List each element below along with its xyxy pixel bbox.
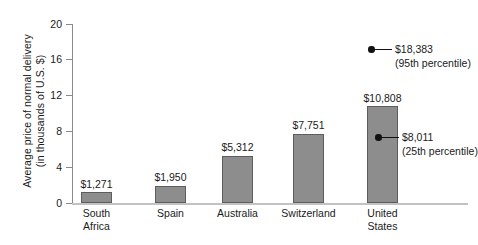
p95-marker-dot [368, 46, 375, 53]
bar-spain [155, 186, 186, 204]
p25-marker-value: $8,011 [402, 131, 433, 143]
bar-value-spain: $1,950 [140, 171, 201, 183]
y-axis-line [72, 24, 73, 204]
bar-value-switzerland: $7,751 [278, 119, 339, 131]
p95-marker-label: $18,383 (95th percentile) [395, 43, 471, 70]
y-tick-20 [66, 24, 72, 25]
y-tick-label-16: 16 [38, 53, 62, 65]
y-axis-title-line-1: Average price of normal delivery [21, 34, 34, 188]
y-tick-label-4: 4 [38, 161, 62, 173]
x-axis-label-south-africa-line-1: South [83, 207, 110, 219]
x-axis-label-united-states-line-1: United [367, 207, 397, 219]
p25-marker-sublabel: (25th percentile) [402, 145, 478, 159]
p25-marker-label: $8,011 (25th percentile) [402, 131, 478, 158]
bar-south-africa [81, 192, 112, 203]
x-axis-baseline [72, 203, 468, 205]
y-axis-title: Average price of normal delivery (in tho… [19, 11, 49, 211]
y-tick-0 [66, 203, 72, 204]
x-axis-label-spain: Spain [140, 207, 201, 220]
y-tick-label-0: 0 [38, 197, 62, 209]
x-axis-label-spain-line-1: Spain [157, 207, 184, 219]
bar-value-australia: $5,312 [207, 141, 268, 153]
p95-marker-sublabel: (95th percentile) [395, 57, 471, 71]
x-axis-label-south-africa: South Africa [66, 207, 127, 233]
bar-united-states [367, 106, 398, 203]
p95-marker-value: $18,383 [395, 43, 433, 55]
y-tick-label-20: 20 [38, 18, 62, 30]
x-axis-label-australia: Australia [207, 207, 268, 220]
y-tick-16 [66, 59, 72, 60]
x-axis-label-united-states: United States [352, 207, 413, 233]
y-tick-label-8: 8 [38, 125, 62, 137]
x-axis-label-australia-line-1: Australia [217, 207, 258, 219]
p25-marker-dot [375, 134, 382, 141]
y-tick-label-12: 12 [38, 89, 62, 101]
bar-australia [222, 156, 253, 204]
x-axis-label-switzerland-line-1: Switzerland [281, 207, 335, 219]
y-tick-8 [66, 131, 72, 132]
y-axis-title-line-2: (in thousands of U.S. $) [34, 55, 47, 168]
y-tick-12 [66, 95, 72, 96]
p25-marker-leader-line [382, 137, 399, 138]
x-axis-label-switzerland: Switzerland [275, 207, 342, 220]
x-axis-label-south-africa-line-2: Africa [83, 220, 110, 232]
x-axis-label-united-states-line-2: States [368, 220, 398, 232]
p95-marker-leader-line [375, 49, 392, 50]
bar-switzerland [293, 134, 324, 203]
bar-value-united-states: $10,808 [352, 92, 413, 104]
bar-value-south-africa: $1,271 [66, 178, 127, 190]
y-tick-4 [66, 167, 72, 168]
